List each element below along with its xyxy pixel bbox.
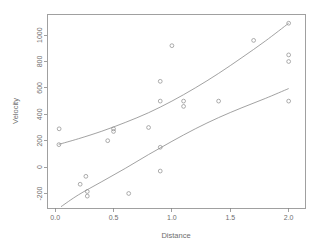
data-point — [158, 169, 162, 173]
data-point — [287, 21, 291, 25]
data-point — [127, 192, 131, 196]
plot-canvas: 0.00.51.01.52.0 -20002004006008001000 Di… — [0, 0, 323, 250]
data-point — [85, 194, 89, 198]
y-tick-label: 1000 — [37, 27, 44, 43]
x-tick-label: 1.0 — [167, 214, 177, 221]
data-point — [57, 127, 61, 131]
y-tick-label: -200 — [37, 186, 44, 200]
y-tick-label: 200 — [37, 135, 44, 147]
y-axis-title: Velocity — [11, 98, 20, 124]
y-axis-tick-labels: -20002004006008001000 — [37, 27, 44, 200]
y-tick-label: 800 — [37, 56, 44, 68]
y-axis-ticks — [44, 35, 48, 193]
x-axis-title: Distance — [161, 231, 190, 240]
data-point — [112, 130, 116, 134]
scatter-plot-figure: 0.00.51.01.52.0 -20002004006008001000 Di… — [0, 0, 323, 250]
data-point — [106, 139, 110, 143]
confidence-band-curves — [59, 23, 289, 206]
data-point — [158, 99, 162, 103]
data-point — [84, 174, 88, 178]
x-axis-ticks — [55, 208, 288, 212]
data-point — [287, 99, 291, 103]
data-point — [182, 104, 186, 108]
data-point — [287, 60, 291, 64]
upper-band-curve — [59, 23, 289, 144]
x-axis-tick-labels: 0.00.51.01.52.0 — [50, 214, 293, 221]
data-point — [170, 44, 174, 48]
plot-frame — [47, 14, 305, 208]
data-point — [78, 182, 82, 186]
data-point — [287, 53, 291, 57]
data-point — [217, 99, 221, 103]
y-tick-label: 400 — [37, 108, 44, 120]
x-tick-label: 0.0 — [50, 214, 60, 221]
y-tick-label: 0 — [37, 165, 44, 169]
x-tick-label: 1.5 — [225, 214, 235, 221]
y-tick-label: 600 — [37, 82, 44, 94]
data-point — [252, 38, 256, 42]
data-point — [158, 79, 162, 83]
x-tick-label: 0.5 — [109, 214, 119, 221]
data-point — [182, 99, 186, 103]
data-point — [147, 126, 151, 130]
plot-box-border — [47, 14, 305, 208]
x-tick-label: 2.0 — [284, 214, 294, 221]
lower-band-curve — [61, 89, 289, 207]
